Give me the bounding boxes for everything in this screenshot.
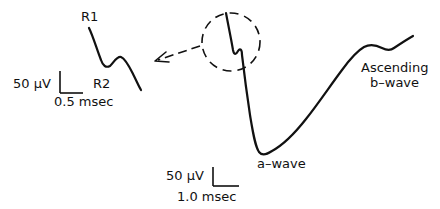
main-scale-bar	[213, 167, 239, 186]
inset-scale-voltage-label: 50 μV	[13, 77, 51, 90]
label-b-wave-line1: Ascending	[361, 61, 428, 74]
main-scale-voltage-label: 50 μV	[166, 169, 204, 182]
inset-scale-bar	[60, 71, 83, 93]
label-r1: R1	[81, 10, 98, 23]
label-b-wave-line2: b–wave	[370, 76, 419, 89]
callout-arrow	[155, 46, 200, 62]
label-r2: R2	[93, 77, 110, 90]
main-scale-time-label: 1.0 msec	[177, 190, 236, 203]
label-a-wave: a–wave	[257, 157, 306, 170]
inset-scale-time-label: 0.5 msec	[54, 95, 113, 108]
erg-diagram: R1 R2 50 μV 0.5 msec a–wave Ascending b–…	[0, 0, 440, 209]
